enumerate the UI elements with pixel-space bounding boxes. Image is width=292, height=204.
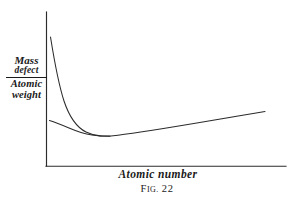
x-axis-label: Atomic number (0, 168, 292, 180)
figure-caption: FIG.22 (0, 183, 292, 194)
figure-caption-number: 22 (162, 183, 174, 194)
y-axis-label-denominator-line2: weight (6, 90, 47, 101)
y-axis-label-denominator: Atomic weight (6, 79, 47, 100)
curve-main (51, 37, 266, 136)
y-axis-label-numerator: Mass defect (6, 55, 47, 76)
figure-22: Mass defect Atomic weight Atomic number … (0, 0, 292, 204)
y-axis-label: Mass defect Atomic weight (6, 55, 47, 101)
figure-caption-ig: IG. (147, 185, 159, 194)
y-axis-label-numerator-line2: defect (6, 66, 47, 76)
